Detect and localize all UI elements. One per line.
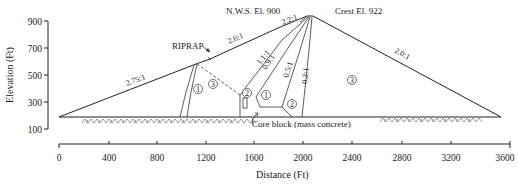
foundation-hatch-left [82,119,256,123]
y-tick-300: 300 [28,98,43,108]
x-axis: 0 400 800 1200 1600 2000 2400 2800 3200 … [57,141,515,181]
x-tick-0: 0 [57,153,62,163]
x-tick-400: 400 [102,153,117,163]
y-tick-500: 500 [28,71,43,81]
crest-elevation-label: Crest El. 922 [335,6,382,16]
zone-3-downstream: 3 [350,76,354,85]
x-tick-2800: 2800 [393,153,412,163]
slope-labels: 2.75:1 2.6:1 2.2:1 1.1:1 0.9:1 0.5:1 0.2… [124,12,411,88]
nws-elevation-label: N.W.S. El. 900 [226,6,281,16]
foundation-hatch-right [380,118,482,122]
x-tick-3200: 3200 [442,153,461,163]
slope-core-downstream-outer: 0.2:1 [300,67,311,84]
x-tick-800: 800 [150,153,165,163]
dam-cross-section-figure: 900 700 500 300 100 Elevation (Ft) 0 400… [0,0,518,187]
zone-1-upstream: 1 [196,85,200,94]
y-tick-100: 100 [28,125,43,135]
x-tick-2400: 2400 [343,153,362,163]
annotations: N.W.S. El. 900 Crest El. 922 RIPRAP Core… [172,6,382,129]
zone-2-downstream: 2 [290,100,294,109]
x-tick-3600: 3600 [496,153,515,163]
y-axis-title: Elevation (Ft) [4,47,16,103]
x-axis-title: Distance (Ft) [256,169,309,181]
zone-2-upstream: 2 [245,89,249,98]
x-tick-1200: 1200 [197,153,216,163]
zone-3-upstream: 3 [211,80,215,89]
slope-upstream-lower: 2.75:1 [124,72,146,88]
core-block-label: Core block (mass concrete) [252,119,351,129]
slope-upstream-top: 2.2:1 [280,12,298,27]
y-tick-900: 900 [28,17,43,27]
dam-outline [59,16,501,117]
slope-downstream: 2.0:1 [393,46,412,62]
riprap-label: RIPRAP [172,41,204,51]
slope-core-downstream-inner: 0.5:1 [281,60,295,78]
zone-labels: 1 3 2 1 2 3 [194,76,357,110]
y-tick-700: 700 [28,44,43,54]
y-axis: 900 700 500 300 100 Elevation (Ft) [4,17,48,135]
x-tick-2000: 2000 [294,153,313,163]
zone-1-core: 1 [264,91,268,100]
x-tick-1600: 1600 [245,153,264,163]
slope-upstream-mid: 2.6:1 [226,31,244,46]
